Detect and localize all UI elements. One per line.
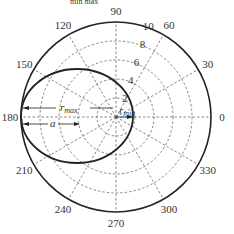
radial-labels: 246810 [122,20,154,104]
grid-spoke [116,117,198,165]
radial-label: 2 [122,92,128,104]
a-label: a [50,117,56,129]
r-max-label: rmax [60,101,78,115]
header-fragment: min max [70,0,98,6]
angle-label: 30 [202,58,214,70]
radial-label: 10 [143,20,155,32]
angle-label: 210 [16,164,33,176]
angle-label: 150 [16,58,33,70]
radial-label: 4 [128,74,134,86]
r-max-arrow: rmax [23,101,113,115]
grid-spoke [69,35,117,117]
angle-label: 120 [55,19,72,31]
angle-label: 240 [55,203,72,215]
angle-label: 60 [164,19,176,31]
a-arrow: a [22,117,80,129]
polar-ellipse-diagram: min max 0306090120150180210240270300330 … [0,0,234,234]
grid-spoke [116,117,164,199]
angle-label: 180 [2,111,19,123]
r-min-label: rmin [119,104,135,118]
angle-label: 330 [200,164,217,176]
angle-label: 300 [161,203,178,215]
radial-label: 8 [140,38,146,50]
angle-label: 90 [111,5,123,17]
angle-label: 0 [219,111,225,123]
radial-label: 6 [134,56,140,68]
grid-spoke [69,117,117,199]
angle-label: 270 [108,217,125,229]
